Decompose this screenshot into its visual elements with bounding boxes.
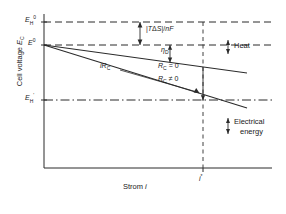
electrical-energy-line1: Electrical <box>234 117 264 126</box>
curve-label-with-resistance: RC ≠ 0 <box>158 75 178 84</box>
curve-label-no-resistance: RC = 0 <box>158 62 179 71</box>
no-resistance-relation: = 0 <box>167 62 179 69</box>
arrowhead-ohmic-down <box>201 95 205 100</box>
figure-canvas: Cell voltage EC EH0 E0 EH' |TΔS|/nF ηD i… <box>0 0 286 214</box>
heat-label-text: Heat <box>234 41 250 50</box>
eta-subscript: D <box>165 49 169 55</box>
curve-no-resistance <box>44 45 247 73</box>
annotation-electrical-energy-line2: energy <box>240 128 263 136</box>
arrowhead-entropy-up <box>138 22 143 28</box>
y-axis-title-subscript: C <box>19 36 25 40</box>
y-axis-title-symbol: E <box>15 40 24 45</box>
ohmic-subscript: C <box>107 65 111 71</box>
arrowhead-electrical-down <box>226 129 230 134</box>
arrowhead-entropy-down <box>138 40 143 46</box>
level-label-lower-heating-potential: EH' <box>25 93 34 104</box>
annotation-activation-overpotential: ηD <box>161 46 169 55</box>
y-axis-title: Cell voltage EC <box>15 13 26 109</box>
annotation-electrical-energy: Electrical <box>234 118 264 126</box>
level-label-lower-heating-subscript: H <box>30 98 34 104</box>
x-axis-title-symbol: i <box>145 182 147 191</box>
x-axis-title-text: Strom <box>123 182 145 191</box>
annotation-heat: Heat <box>234 42 250 50</box>
level-label-enthalpy-potential: EH0 <box>25 15 36 26</box>
arrowhead-heat-down <box>226 49 230 54</box>
arrowhead-heat-up <box>226 40 230 45</box>
y-axis-title-text: Cell voltage <box>15 45 24 86</box>
arrowhead-leader-ohmic <box>194 88 200 93</box>
level-label-enthalpy-subscript: H <box>30 20 34 26</box>
level-label-lower-heating-superscript: ' <box>33 92 34 98</box>
x-axis-title: Strom i <box>123 183 147 191</box>
entropy-nf-symbol: nF <box>165 25 173 32</box>
electrical-energy-line2: energy <box>240 127 263 136</box>
x-tick-label-i-star: i* <box>199 174 203 182</box>
level-label-reversible-potential: E0 <box>28 38 35 46</box>
level-label-reversible-superscript: 0 <box>33 37 36 43</box>
annotation-entropy-term: |TΔS|/nF <box>146 25 173 32</box>
with-resistance-relation: ≠ 0 <box>167 75 179 82</box>
curve-with-resistance <box>44 45 247 108</box>
level-label-enthalpy-superscript: 0 <box>33 14 36 20</box>
annotation-ohmic-drop: iRC <box>100 62 110 71</box>
i-star-superscript: * <box>201 173 203 179</box>
arrowhead-electrical-up <box>226 118 230 123</box>
